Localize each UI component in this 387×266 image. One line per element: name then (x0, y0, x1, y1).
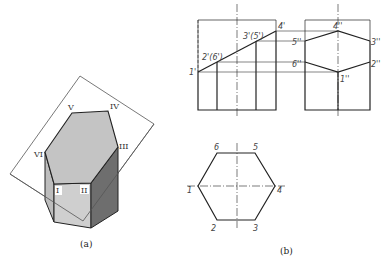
vertex-label-II: II (81, 186, 87, 195)
caption-a: (a) (80, 239, 92, 249)
top-label-3: 3 (253, 224, 258, 233)
vertex-label-I: I (56, 186, 59, 195)
side-label-3: 3'' (371, 38, 381, 47)
vertex-label-IV: IV (110, 102, 119, 111)
top-view (187, 143, 285, 228)
vertex-label-V: V (67, 103, 74, 112)
front-label-1: 1' (189, 68, 196, 77)
side-label-1: 1'' (340, 75, 350, 84)
top-view-hexagon (198, 153, 275, 220)
top-label-2: 2 (211, 224, 216, 233)
side-view-top-roof (305, 31, 370, 41)
top-label-1: 1 (187, 186, 192, 195)
front-label-3-5: 3'(5') (243, 32, 264, 41)
figure-b: 1' 2'(6') 3'(5') 4' 4'' 5'' 3'' 6'' 2'' … (187, 4, 381, 256)
front-label-2-6: 2'(6') (202, 53, 223, 62)
vertex-label-III: III (119, 142, 128, 151)
side-label-5: 5'' (292, 38, 302, 47)
side-label-6: 6'' (292, 60, 302, 69)
caption-b: (b) (280, 246, 293, 256)
top-label-6: 6 (214, 143, 219, 152)
side-label-2: 2'' (371, 60, 381, 69)
diagram-canvas: V IV III VI I II (a) 1' (0, 0, 387, 266)
vertex-label-VI: VI (33, 150, 43, 159)
top-label-4: 4 (277, 186, 282, 195)
side-view-lower-v (305, 62, 370, 72)
side-label-4: 4'' (333, 22, 343, 31)
front-label-4: 4' (278, 22, 285, 31)
top-label-5: 5 (253, 143, 258, 152)
figure-a: V IV III VI I II (a) (10, 76, 154, 249)
